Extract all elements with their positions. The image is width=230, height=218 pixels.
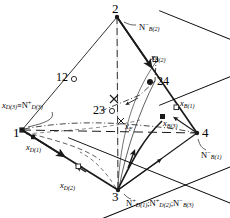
leader-n-b2 bbox=[124, 22, 136, 25]
label-x-b1: xB(1) bbox=[180, 99, 194, 109]
curve-24-to-xb2 bbox=[155, 62, 156, 81]
label-x-d2-crossed: xD(2) bbox=[60, 181, 230, 191]
label-vertex3-group: N+D(1);N+D(2);N−B(3) bbox=[126, 198, 194, 208]
vertex-4-marker bbox=[195, 131, 199, 135]
edge-1-4 bbox=[22, 130, 197, 133]
label-v3-sub3: B(3) bbox=[183, 202, 194, 208]
marker-12 bbox=[71, 76, 76, 81]
direction-arrows bbox=[22, 17, 197, 190]
point-markers bbox=[19, 15, 199, 192]
vertex-label-2: 2 bbox=[112, 2, 119, 15]
label-x-d1-sub: D(1) bbox=[30, 147, 41, 153]
leader-x-d3 bbox=[28, 112, 52, 127]
label-x-b1-sub: B(1) bbox=[184, 103, 195, 109]
marker-label-12: 12 bbox=[56, 71, 68, 83]
vertex-1-marker bbox=[19, 127, 24, 132]
label-x-d1: xD(1) bbox=[26, 143, 41, 153]
marker-cross-23 bbox=[110, 95, 118, 103]
tetrahedron-edges bbox=[22, 17, 197, 190]
curve-23-to-24 bbox=[101, 81, 155, 111]
label-x-b2-sub: B(2) bbox=[155, 57, 166, 63]
vertex-label-4: 4 bbox=[202, 126, 209, 139]
marker-label-23: 23 bbox=[93, 104, 105, 116]
marker-xd1 bbox=[31, 135, 35, 139]
label-x-b3-sub: B(3) bbox=[167, 123, 178, 129]
arrow-4-to-xb1 bbox=[175, 118, 197, 133]
label-n-b1: N−B(1) bbox=[201, 150, 221, 160]
label-x-d3-sub: D(3) bbox=[6, 104, 17, 110]
label-x-d2-sub: D(2) bbox=[64, 184, 75, 190]
label-n-b2: N−B(2) bbox=[139, 22, 159, 32]
label-x-b3: xB(3) bbox=[163, 119, 177, 129]
arrow-toward-23 bbox=[127, 98, 138, 104]
leader-n-b1 bbox=[198, 139, 206, 150]
label-x-f: xF bbox=[125, 122, 132, 132]
marker-xb1 bbox=[174, 105, 179, 110]
vertex-label-3: 3 bbox=[112, 190, 119, 203]
marker-xf bbox=[118, 118, 124, 124]
figure-canvas: 2 1 3 4 12 24 23 N−B(2) N−B(1) xD(3)≡N+D… bbox=[0, 0, 230, 218]
label-x-d3-equiv: xD(3)≡N+D(3) bbox=[2, 100, 43, 110]
marker-24 bbox=[147, 79, 153, 85]
vertex-label-1: 1 bbox=[13, 126, 20, 139]
label-x-d3-n-sub: D(3) bbox=[31, 104, 42, 110]
marker-xd2 bbox=[76, 164, 81, 169]
label-v3-sub2: D(2) bbox=[159, 202, 170, 208]
label-x-b2-crossed: xB(2) bbox=[151, 53, 230, 63]
label-x-f-sub: F bbox=[129, 126, 133, 132]
marker-label-24: 24 bbox=[157, 75, 169, 87]
label-n-b2-sub: B(2) bbox=[149, 26, 160, 32]
marker-23 bbox=[109, 108, 114, 113]
label-n-b1-sub: B(1) bbox=[211, 154, 222, 160]
label-v3-sub1: D(1) bbox=[136, 202, 147, 208]
